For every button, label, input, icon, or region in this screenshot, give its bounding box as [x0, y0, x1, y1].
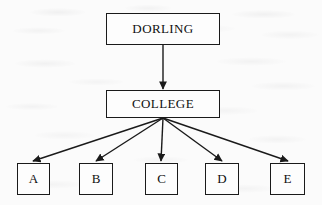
node-dorling-label: DORLING: [132, 21, 193, 37]
edge-college-to-e: [163, 118, 288, 161]
node-leaf-b-label: B: [92, 171, 101, 187]
edge-college-to-c: [161, 118, 163, 161]
node-leaf-b: B: [79, 163, 113, 195]
node-dorling: DORLING: [106, 13, 220, 45]
diagram-page: DORLING COLLEGE A B C D E: [0, 0, 322, 205]
node-college-label: COLLEGE: [132, 96, 194, 112]
node-leaf-c-label: C: [157, 171, 166, 187]
node-leaf-d-label: D: [217, 171, 226, 187]
node-leaf-e: E: [270, 163, 305, 195]
node-leaf-e-label: E: [284, 171, 292, 187]
node-leaf-c: C: [145, 163, 178, 195]
edge-college-to-b: [96, 118, 163, 161]
node-college: COLLEGE: [106, 90, 220, 118]
node-leaf-d: D: [205, 163, 239, 195]
node-leaf-a: A: [17, 163, 50, 195]
edge-college-to-d: [163, 118, 222, 161]
node-leaf-a-label: A: [29, 171, 38, 187]
edge-college-to-a: [33, 118, 163, 161]
